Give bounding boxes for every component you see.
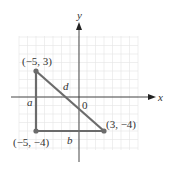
x-axis-label: x: [157, 91, 163, 103]
segment-label-a: a: [27, 96, 33, 108]
y-axis-label: y: [76, 9, 82, 21]
point-label: (−5, 3): [22, 55, 52, 68]
segment-label-d: d: [63, 80, 69, 92]
origin-label: 0: [82, 99, 88, 111]
y-axis-arrow-icon: [76, 22, 82, 30]
x-axis-arrow-icon: [148, 94, 156, 100]
point-label: (−5, −4): [13, 136, 50, 149]
segment-label-b: b: [67, 134, 73, 146]
vertex-point: [33, 128, 38, 133]
coordinate-plane: y x 0 (−5, 3) (−5, −4) (3, −4) a b d: [0, 0, 172, 173]
point-label: (3, −4): [106, 118, 136, 131]
vertex-point: [33, 68, 38, 73]
